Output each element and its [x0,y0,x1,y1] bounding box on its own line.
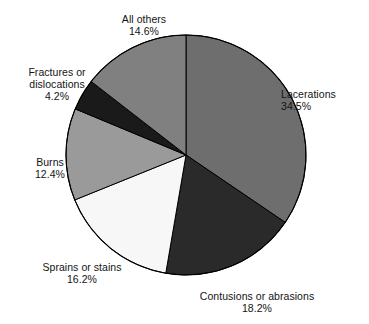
pie-label-sprains-name: Sprains or stains [20,261,144,273]
pie-label-sprains-value: 16.2% [20,273,144,285]
pie-label-contusions-value: 18.2% [184,302,330,314]
pie-label-contusions-name: Contusions or abrasions [184,290,330,302]
pie-label-all-others-name: All others [92,13,196,25]
pie-chart-figure: All others 14.6% Lacerations 34.5% Fract… [0,0,369,324]
pie-label-lacerations-value: 34.5% [281,100,367,112]
pie-label-contusions-or-abrasions: Contusions or abrasions 18.2% [184,290,330,314]
pie-label-fractures-name-line1: Fractures or [8,66,106,78]
pie-label-all-others: All others 14.6% [92,13,196,37]
pie-label-burns: Burns 12.4% [13,156,87,180]
pie-label-lacerations-name: Lacerations [281,88,367,100]
pie-label-burns-name: Burns [13,156,87,168]
pie-label-fractures-or-dislocations: Fractures or dislocations 4.2% [8,66,106,103]
pie-label-fractures-name-line2: dislocations [8,78,106,90]
pie-label-all-others-value: 14.6% [92,25,196,37]
pie-label-burns-value: 12.4% [13,168,87,180]
pie-label-sprains-or-stains: Sprains or stains 16.2% [20,261,144,285]
pie-label-fractures-value: 4.2% [8,90,106,102]
pie-label-lacerations: Lacerations 34.5% [281,88,367,112]
